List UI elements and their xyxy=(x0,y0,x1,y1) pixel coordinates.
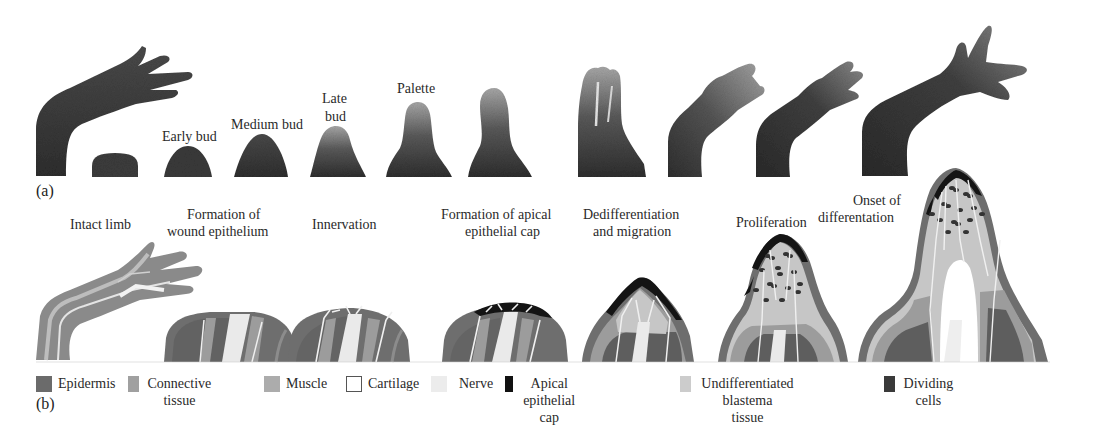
legend-item-undifferentiated-blastema: Undifferentiated blastema tissue xyxy=(680,375,796,426)
stage-label-medium-bud: Medium bud xyxy=(231,116,303,133)
dividing-cells-swatch xyxy=(884,376,895,392)
legend-label-line1: Undifferentiated blastema xyxy=(701,376,793,408)
digit-formation-photo xyxy=(578,67,646,177)
legend-label: Dividing cells xyxy=(901,375,956,409)
legend-item-apical-epithelial-cap: Apical epithelial cap xyxy=(505,375,579,426)
apical-epithelial-cap-swatch xyxy=(505,376,513,392)
medium-bud-photo xyxy=(234,134,288,177)
legend-label: Undifferentiated blastema tissue xyxy=(699,375,797,426)
legend-item-connective-tissue: Connective tissue xyxy=(128,375,214,409)
wound-epithelium-diagram xyxy=(164,312,296,362)
stage-label-early-bud: Early bud xyxy=(162,128,217,145)
muscle-swatch xyxy=(264,376,280,392)
epidermis-swatch xyxy=(36,376,52,392)
stage-title-proliferation: Proliferation xyxy=(736,214,807,231)
proliferation-diagram xyxy=(718,234,848,362)
wound-stump-photo xyxy=(92,153,138,177)
panel-b-label: (b) xyxy=(36,395,55,413)
dedifferentiation-diagram xyxy=(582,277,694,362)
stage-title-dedifferentiation-line1: Dedifferentiation xyxy=(583,206,679,223)
legend-item-muscle: Muscle xyxy=(264,375,327,392)
legend-item-nerve: Nerve xyxy=(431,375,493,392)
stage-title-dedifferentiation-line2: and migration xyxy=(593,223,671,240)
stage-title-apical-cap-line2: epithelial cap xyxy=(465,223,540,240)
stage-label-late-bud-line1: Late xyxy=(322,90,347,107)
early-bud-photo xyxy=(164,146,212,177)
blastema-swatch xyxy=(680,376,691,392)
legend-item-dividing-cells: Dividing cells xyxy=(884,375,956,409)
connective-tissue-swatch xyxy=(128,376,139,392)
stage-title-innervation: Innervation xyxy=(312,216,377,233)
stage-title-apical-cap-line1: Formation of apical xyxy=(441,206,551,223)
stage-title-onset-line2: differentation xyxy=(818,209,894,226)
apical-cap-diagram xyxy=(442,302,568,362)
legend-label: Apical epithelial cap xyxy=(519,375,579,426)
legend-label: Connective tissue xyxy=(145,375,214,409)
stage-label-late-bud-line2: bud xyxy=(325,108,346,125)
stage-label-palette: Palette xyxy=(397,80,435,97)
legend-item-epidermis: Epidermis xyxy=(36,375,116,392)
stage-title-intact-limb: Intact limb xyxy=(70,216,131,233)
legend-item-cartilage: Cartilage xyxy=(346,375,419,392)
late-bud-photo xyxy=(310,126,366,177)
stage-title-wound-epithelium-line1: Formation of xyxy=(187,206,261,223)
cartilage-swatch xyxy=(346,376,362,392)
legend-label: Muscle xyxy=(286,375,327,392)
stage-title-onset-line1: Onset of xyxy=(853,192,901,209)
legend-label-line2: tissue xyxy=(732,410,764,425)
legend-label: Epidermis xyxy=(58,375,116,392)
legend-label: Nerve xyxy=(459,375,493,392)
late-regenerate-photo xyxy=(756,62,863,177)
palette-photo xyxy=(386,102,452,177)
stage-title-wound-epithelium-line2: wound epithelium xyxy=(167,223,269,240)
nerve-swatch xyxy=(431,376,447,392)
digit-outgrowth-photo xyxy=(668,64,765,177)
panel-a-label: (a) xyxy=(36,182,54,200)
innervation-diagram xyxy=(288,306,410,362)
fully-regenerated-limb-photo xyxy=(862,26,1027,176)
legend-label: Cartilage xyxy=(368,375,419,392)
elongation-photo xyxy=(468,88,532,177)
